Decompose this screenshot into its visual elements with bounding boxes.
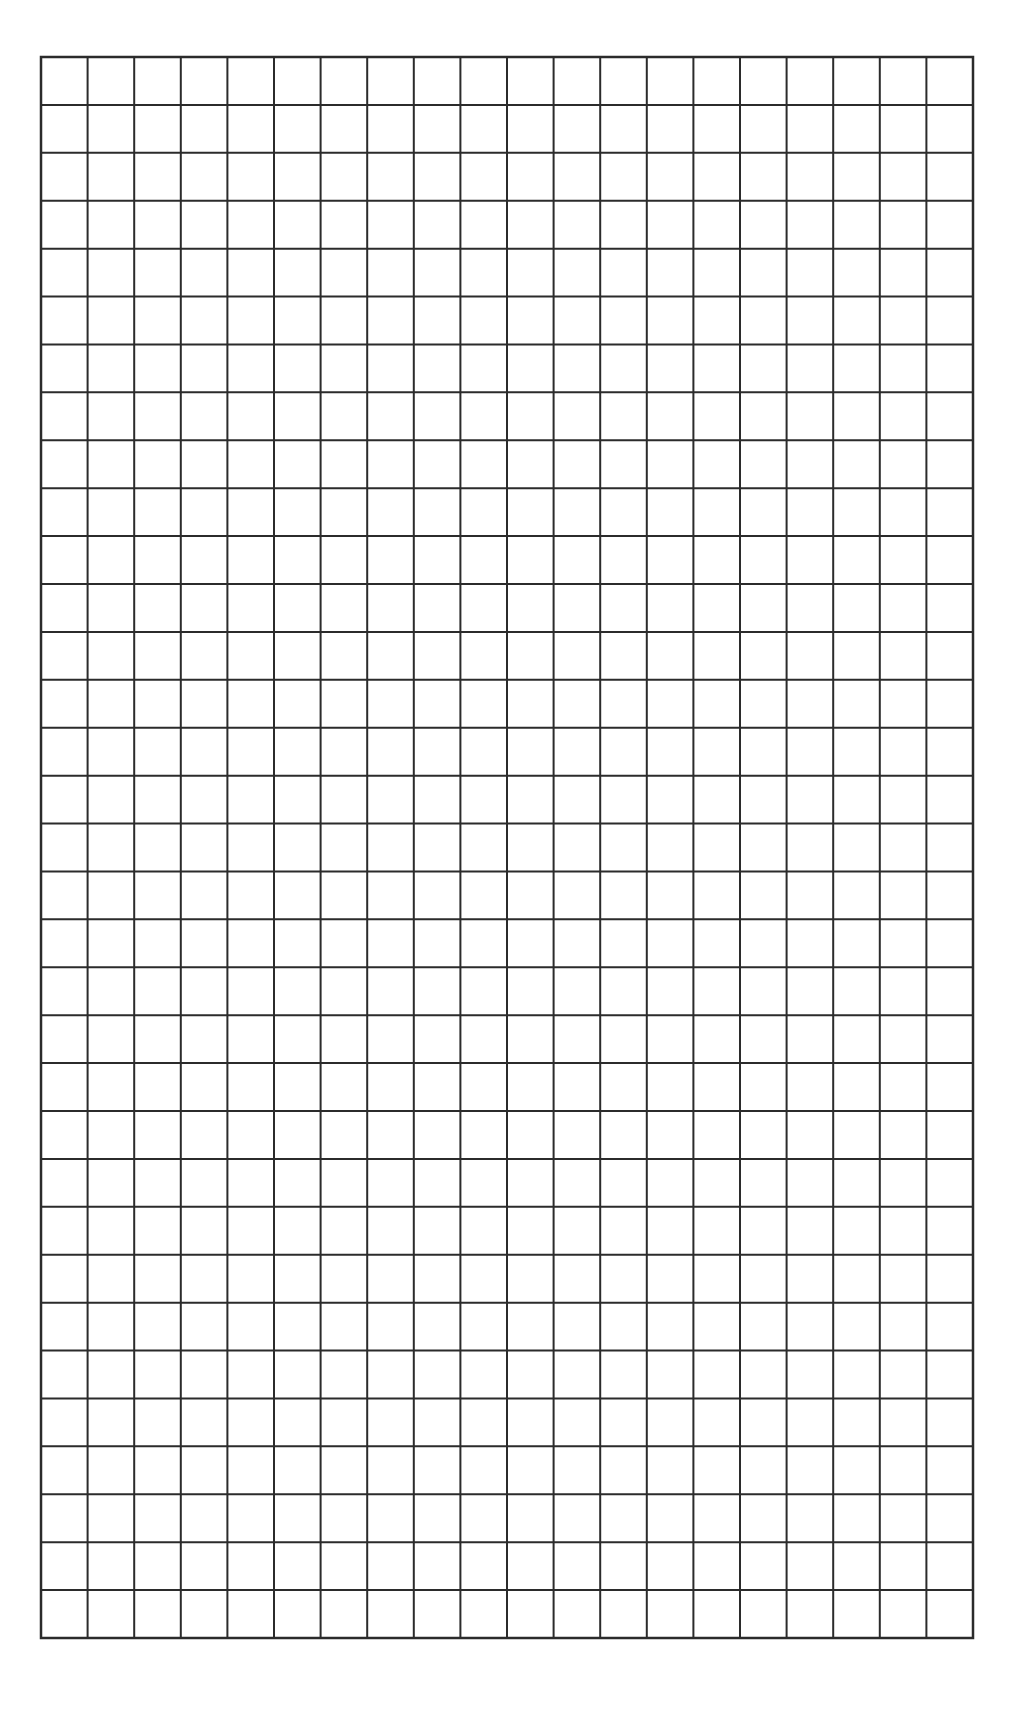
grid-lines <box>41 57 973 1638</box>
grid-paper <box>0 0 1023 1720</box>
